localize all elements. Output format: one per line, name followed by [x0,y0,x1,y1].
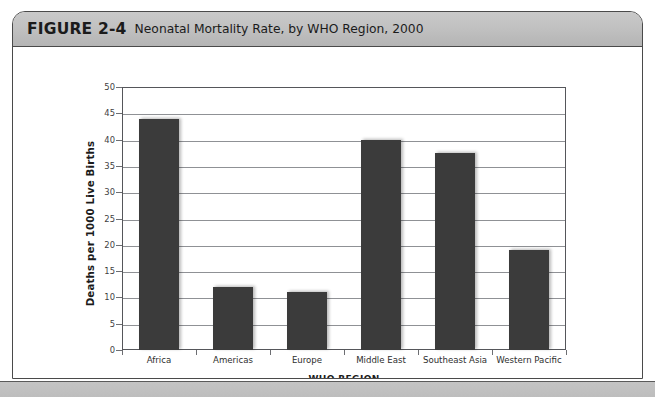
bar-chart: Deaths per 1000 Live Births 504540353025… [13,47,643,378]
y-axis-tick-mark [116,192,122,193]
x-axis-tick-mark [122,350,123,355]
x-axis-tick-labels: AfricaAmericasEuropeMiddle EastSoutheast… [122,355,566,365]
x-axis-tick-mark [492,350,493,355]
x-axis-tick-label: Southeast Asia [418,355,492,365]
gridline [123,246,565,247]
gridline [123,325,565,326]
gridline [123,141,565,142]
gridline [123,272,565,273]
y-axis-tick-label: 30 [93,187,115,197]
x-axis-tick-mark [344,350,345,355]
gridline [123,220,565,221]
y-axis-tick-mark [116,140,122,141]
plot-frame [122,87,566,350]
y-axis-tick-mark [116,271,122,272]
x-axis-tick-label: Americas [196,355,270,365]
x-axis-tick-mark [566,350,567,355]
gridline [123,167,565,168]
gridline [123,298,565,299]
x-axis-tick-label: Middle East [344,355,418,365]
figure-card: FIGURE 2-4 Neonatal Mortality Rate, by W… [12,11,643,379]
x-axis-tick-mark [418,350,419,355]
y-axis-tick-label: 0 [93,345,115,355]
y-axis-tick-label: 35 [93,161,115,171]
y-axis-tick-label: 10 [93,292,115,302]
y-axis-tick-mark [116,297,122,298]
y-axis-tick-mark [116,245,122,246]
y-axis-tick-label: 15 [93,266,115,276]
figure-number: FIGURE 2-4 [27,20,127,38]
x-axis-tick-mark [270,350,271,355]
x-axis-tick-label: Western Pacific [492,355,566,365]
y-axis-tick-label: 25 [93,214,115,224]
y-axis-tick-mark [116,166,122,167]
y-axis-tick-mark [116,113,122,114]
y-axis-tick-label: 50 [93,82,115,92]
y-axis-tick-label: 40 [93,135,115,145]
x-axis-title: WHO REGION [122,374,566,379]
y-axis-tick-mark [116,219,122,220]
gridline [123,114,565,115]
x-axis-tick-mark [196,350,197,355]
x-axis-tick-label: Africa [122,355,196,365]
figure-header: FIGURE 2-4 Neonatal Mortality Rate, by W… [13,12,642,47]
y-axis-tick-mark [116,324,122,325]
y-axis-tick-labels: 50454035302520151050 [93,87,115,350]
y-axis-tick-label: 20 [93,240,115,250]
figure-body: Deaths per 1000 Live Births 504540353025… [13,47,642,378]
x-axis-tick-label: Europe [270,355,344,365]
page-footer-band [0,381,655,397]
figure-caption: Neonatal Mortality Rate, by WHO Region, … [135,22,424,36]
gridline [123,193,565,194]
y-axis-tick-mark [116,87,122,88]
y-axis-tick-label: 5 [93,319,115,329]
y-axis-tick-label: 45 [93,108,115,118]
